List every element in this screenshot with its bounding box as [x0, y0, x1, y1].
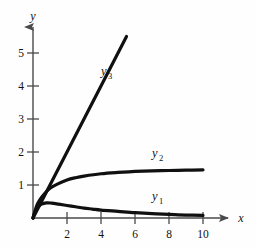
y-axis-label: y	[29, 9, 36, 23]
x-tick-label-2: 2	[64, 228, 70, 240]
curve-label-y2-text: y	[150, 146, 158, 160]
curve-label-y3-subscript: 3	[108, 71, 112, 81]
curve-label-y1-subscript: 1	[159, 196, 163, 206]
curve-label-y1-text: y	[150, 189, 158, 203]
x-tick-label-6: 6	[132, 228, 138, 240]
y-tick-label-1: 1	[18, 179, 24, 191]
curve-label-y2-subscript: 2	[159, 153, 163, 163]
x-tick-label-4: 4	[98, 228, 104, 240]
y-tick-label-5: 5	[18, 47, 24, 59]
figure-container: 1 2 3 4 5 2 4 6 8 10 y x	[0, 0, 255, 248]
plot-area: 1 2 3 4 5 2 4 6 8 10 y x	[0, 0, 255, 248]
y-tick-label-3: 3	[18, 113, 24, 125]
y-tick-label-2: 2	[18, 146, 24, 158]
x-tick-label-10: 10	[197, 228, 209, 240]
x-tick-label-8: 8	[166, 228, 172, 240]
curve-label-y3-text: y	[99, 64, 107, 78]
y-tick-label-4: 4	[18, 80, 24, 92]
x-axis-label: x	[237, 211, 244, 225]
